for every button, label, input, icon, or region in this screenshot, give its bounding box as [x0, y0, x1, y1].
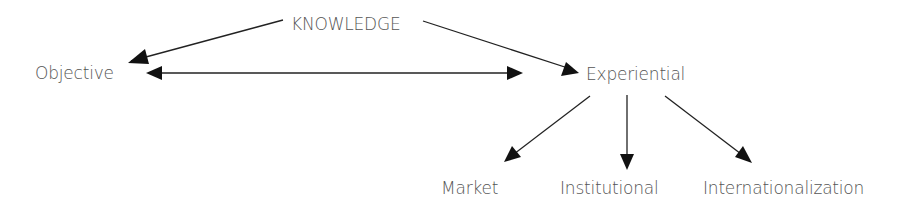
edge-knowledge-objective	[131, 20, 283, 61]
node-internationalization: Internationalization	[703, 178, 864, 198]
edge-experiential-internationalization	[665, 96, 745, 157]
node-experiential: Experiential	[586, 64, 685, 84]
arrowhead-left-icon	[146, 66, 162, 80]
arrowhead-icon	[735, 146, 752, 163]
node-knowledge: KNOWLEDGE	[291, 14, 400, 34]
arrowhead-icon	[620, 154, 634, 170]
node-institutional: Institutional	[560, 178, 659, 198]
edge-experiential-market	[510, 96, 590, 157]
arrowhead-right-icon	[507, 66, 523, 80]
node-market: Market	[441, 178, 498, 198]
edge-knowledge-experiential	[423, 21, 574, 70]
arrowhead-icon	[128, 49, 149, 64]
node-objective: Objective	[35, 63, 114, 83]
arrowhead-icon	[504, 146, 521, 162]
arrowhead-icon	[561, 62, 579, 76]
